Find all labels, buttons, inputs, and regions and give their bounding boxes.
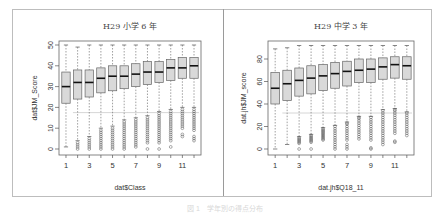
box-3 [295,46,304,151]
x-tick-label: 5 [110,161,114,170]
y-tick-label: 60 [256,78,263,86]
box-11 [178,45,186,138]
box-4 [307,46,316,151]
y-axis-label: dat.jh$JM_score [240,72,248,123]
x-tick-label: 3 [297,161,301,170]
box-11 [391,46,400,144]
y-tick-label: 40 [256,100,263,108]
y-tick-label: 30 [47,83,54,91]
box-2 [283,48,292,145]
y-tick-label: 50 [47,41,54,49]
x-axis-label: dat.jh$Q18_11 [318,184,364,192]
y-tick-label: 80 [256,55,263,63]
x-tick-label: 1 [64,161,68,170]
boxplot-panel-elementary: H29 小学 6 年01020304050dat$JM_Score1357911… [13,10,223,195]
box-10 [167,45,175,148]
box-10 [379,46,388,146]
x-tick-label: 9 [157,161,161,170]
y-tick-label: 10 [47,124,54,132]
figure-caption: 図 1 学年別の得点分布 [150,203,300,211]
x-tick-label: 9 [369,161,373,170]
x-tick-label: 1 [273,161,277,170]
box-12 [190,45,198,142]
chart-title: H29 中学 3 年 [314,21,368,31]
box-12 [403,46,412,137]
box-9 [155,45,163,150]
box-7 [343,46,352,151]
box-9 [367,46,376,151]
box-1 [271,49,280,149]
y-tick-label: 20 [256,123,263,131]
y-tick-label: 0 [256,147,263,151]
box-5 [319,46,328,142]
y-tick-label: 0 [47,147,54,151]
x-axis-label: dat$Class [114,184,146,191]
box-4 [97,45,105,150]
x-tick-label: 7 [345,161,349,170]
box-6 [331,46,340,151]
x-tick-label: 5 [321,161,325,170]
x-tick-label: 3 [87,161,91,170]
box-3 [85,45,93,150]
box-2 [73,47,81,150]
boxplot-panel-junior-high: H29 中学 3 年020406080dat.jh$JM_score135791… [224,10,429,195]
box-6 [120,45,128,150]
box-5 [108,45,116,150]
y-tick-label: 20 [47,103,54,111]
chart-title: H29 小学 6 年 [103,21,157,31]
y-tick-label: 40 [47,62,54,70]
x-tick-label: 11 [178,161,186,170]
box-8 [143,45,151,150]
x-tick-label: 7 [134,161,138,170]
box-8 [355,46,364,141]
boxplot-chart-elementary: H29 小学 6 年01020304050dat$JM_Score1357911… [13,10,223,195]
box-7 [132,45,140,148]
boxplot-chart-junior-high: H29 中学 3 年020406080dat.jh$JM_score135791… [224,10,429,195]
box-1 [62,45,70,147]
x-tick-label: 11 [391,161,399,170]
y-axis-label: dat$JM_Score [31,75,39,120]
